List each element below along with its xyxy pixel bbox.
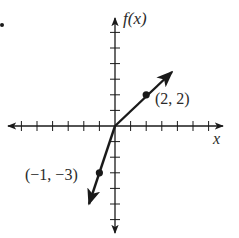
point-2-2-label: (2, 2)	[155, 90, 190, 108]
function-graph: f(x) x (2, 2) (−1, −3)	[0, 0, 239, 238]
point-2-2	[143, 91, 150, 98]
x-axis-label: x	[212, 130, 220, 147]
stray-dot	[0, 23, 4, 27]
y-axis-label: f(x)	[123, 9, 147, 28]
point-neg1-neg3-label: (−1, −3)	[25, 166, 78, 184]
point-neg1-neg3	[96, 169, 103, 176]
function-left-branch	[89, 126, 115, 204]
